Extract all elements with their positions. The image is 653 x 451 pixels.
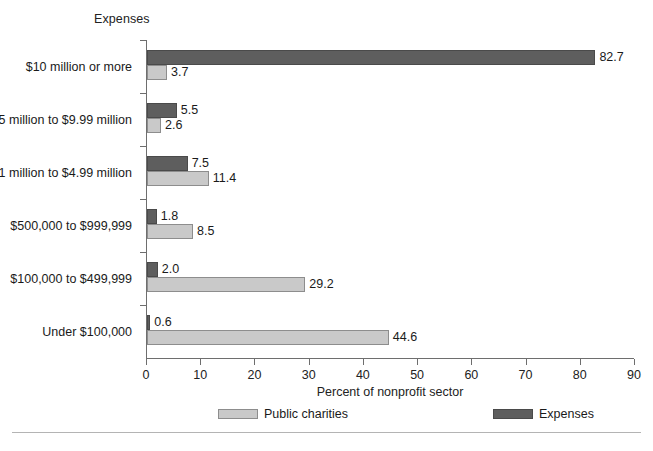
x-axis-tick: [417, 359, 418, 365]
bar-value-public-charities-2: 11.4: [213, 171, 236, 185]
x-axis-tick: [634, 359, 635, 365]
bar-public-charities-2: [147, 171, 209, 186]
x-axis-tick-label-3: 30: [302, 368, 316, 382]
bar-value-public-charities-1: 2.6: [165, 118, 182, 132]
category-label-3: $500,000 to $999,999: [10, 219, 132, 233]
x-axis-tick-label-5: 50: [410, 368, 424, 382]
x-axis-tick-label-7: 70: [519, 368, 533, 382]
category-label-4: $100,000 to $499,999: [10, 272, 132, 286]
x-axis-tick-label-6: 60: [464, 368, 478, 382]
y-axis-tick: [140, 305, 146, 306]
bar-expenses-3: [147, 209, 157, 224]
bar-value-expenses-0: 82.7: [599, 50, 623, 64]
bar-value-public-charities-4: 29.2: [309, 277, 333, 291]
chart-container: Expenses 82.73.75.52.67.511.41.88.52.029…: [0, 0, 653, 451]
footer-divider: [12, 432, 641, 433]
y-axis-tick: [140, 146, 146, 147]
category-label-2: $1 million to $4.99 million: [0, 166, 132, 180]
x-axis-tick: [146, 359, 147, 365]
bar-value-public-charities-5: 44.6: [393, 330, 417, 344]
bar-value-expenses-3: 1.8: [161, 209, 178, 223]
legend-item-expenses[interactable]: Expenses: [493, 407, 594, 421]
x-axis-tick: [580, 359, 581, 365]
x-axis-tick: [254, 359, 255, 365]
legend-swatch-charities: [218, 409, 258, 419]
legend-label-charities: Public charities: [264, 407, 348, 421]
y-axis-tick: [140, 40, 146, 41]
y-axis-line: [146, 40, 147, 358]
chart-legend: Public charitiesExpenses: [0, 407, 653, 427]
bar-value-expenses-4: 2.0: [162, 262, 179, 276]
x-axis-tick: [526, 359, 527, 365]
bar-public-charities-5: [147, 330, 389, 345]
x-axis-line: [146, 358, 634, 359]
bar-public-charities-4: [147, 277, 305, 292]
x-axis-tick: [200, 359, 201, 365]
y-axis-tick: [140, 199, 146, 200]
bar-value-public-charities-0: 3.7: [171, 65, 188, 79]
chart-title: Expenses: [94, 12, 150, 26]
x-axis-tick: [309, 359, 310, 365]
plot-area: 82.73.75.52.67.511.41.88.52.029.20.644.6…: [146, 40, 634, 358]
bar-value-expenses-5: 0.6: [154, 315, 171, 329]
x-axis-tick: [363, 359, 364, 365]
bar-value-expenses-1: 5.5: [181, 103, 198, 117]
x-axis-tick-label-4: 40: [356, 368, 370, 382]
legend-swatch-expenses: [493, 409, 533, 419]
bar-value-public-charities-3: 8.5: [197, 224, 214, 238]
legend-label-expenses: Expenses: [539, 407, 594, 421]
x-axis-tick-label-8: 80: [573, 368, 587, 382]
x-axis-tick-label-1: 10: [193, 368, 207, 382]
bar-expenses-2: [147, 156, 188, 171]
bar-public-charities-0: [147, 65, 167, 80]
bar-expenses-4: [147, 262, 158, 277]
x-axis-tick-label-2: 20: [247, 368, 261, 382]
bar-value-expenses-2: 7.5: [192, 156, 209, 170]
bar-expenses-0: [147, 50, 595, 65]
x-axis-title: Percent of nonprofit sector: [146, 385, 634, 399]
legend-item-charities[interactable]: Public charities: [218, 407, 348, 421]
category-label-5: Under $100,000: [42, 325, 132, 339]
bar-public-charities-1: [147, 118, 161, 133]
category-label-1: $5 million to $9.99 million: [0, 113, 132, 127]
y-axis-tick: [140, 252, 146, 253]
x-axis-tick-label-9: 90: [627, 368, 641, 382]
bar-expenses-1: [147, 103, 177, 118]
x-axis-tick: [471, 359, 472, 365]
x-axis-tick-label-0: 0: [143, 368, 150, 382]
y-axis-tick: [140, 93, 146, 94]
bar-public-charities-3: [147, 224, 193, 239]
bar-expenses-5: [147, 315, 150, 330]
category-label-0: $10 million or more: [26, 60, 132, 74]
